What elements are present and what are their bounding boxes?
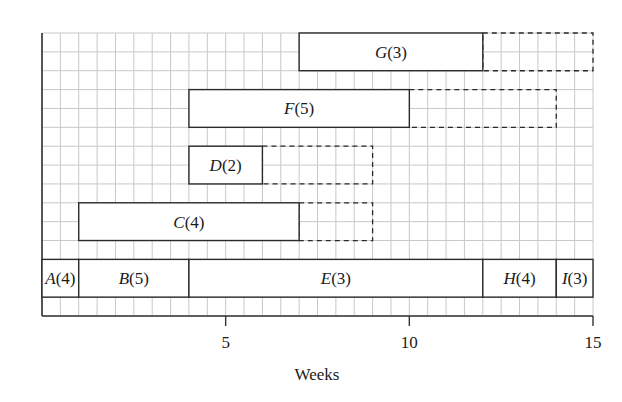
- x-axis: 51015: [221, 316, 601, 352]
- activity-B: B(5): [79, 259, 189, 297]
- x-tick-label: 15: [585, 333, 602, 352]
- bar-label-B: B(5): [119, 269, 149, 288]
- bar-label-D: D(2): [209, 156, 242, 175]
- gantt-chart: A(4)B(5)E(3)H(4)I(3)C(4)D(2)F(5)G(3) 510…: [0, 0, 622, 402]
- activity-A: A(4): [42, 259, 79, 297]
- bar-label-I: I(3): [561, 269, 588, 288]
- activity-E: E(3): [189, 259, 483, 297]
- bar-label-A: A(4): [44, 269, 75, 288]
- bar-label-E: E(3): [320, 269, 351, 288]
- x-tick-label: 5: [221, 333, 230, 352]
- bar-label-C: C(4): [173, 213, 204, 232]
- x-tick-label: 10: [401, 333, 418, 352]
- activity-H: H(4): [483, 259, 556, 297]
- x-axis-title: Weeks: [295, 365, 340, 384]
- activity-I: I(3): [556, 259, 593, 297]
- bar-label-H: H(4): [502, 269, 535, 288]
- bar-label-G: G(3): [375, 43, 407, 62]
- bar-label-F: F(5): [283, 99, 314, 118]
